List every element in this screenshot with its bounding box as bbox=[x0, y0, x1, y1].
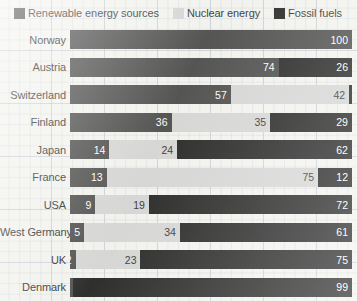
category-label: Japan bbox=[0, 144, 70, 156]
bar-segment-nuclear: 34 bbox=[84, 223, 180, 242]
bar-segment-value: 99 bbox=[336, 282, 352, 293]
category-label: West Germany bbox=[0, 226, 70, 238]
bar-segment-value: 19 bbox=[133, 200, 149, 211]
bar-segment-fossil: 99 bbox=[73, 278, 352, 297]
bar-segment-value: 57 bbox=[215, 90, 231, 101]
bar-segment-fossil: 29 bbox=[270, 113, 352, 132]
legend-item-nuclear: Nuclear energy bbox=[173, 7, 260, 19]
category-label: Finland bbox=[0, 116, 70, 128]
bar-track: 57421 bbox=[70, 85, 352, 104]
category-label: Austria bbox=[0, 61, 70, 73]
bar-segment-value: 62 bbox=[336, 145, 352, 156]
category-label: USA bbox=[0, 199, 70, 211]
bar-track: 142462 bbox=[70, 140, 352, 159]
bar-segment-fossil: 26 bbox=[279, 58, 352, 77]
bar-segment-value: 29 bbox=[336, 117, 352, 128]
legend-item-renewable: Renewable energy sources bbox=[14, 7, 159, 19]
legend-swatch-nuclear-icon bbox=[173, 8, 184, 19]
legend-label: Renewable energy sources bbox=[28, 7, 159, 19]
legend-swatch-renewable-icon bbox=[14, 8, 25, 19]
bar-track: 199 bbox=[70, 278, 352, 297]
bar-segment-nuclear: 35 bbox=[172, 113, 271, 132]
chart-row: Japan142462 bbox=[0, 136, 357, 164]
chart-row: France137512 bbox=[0, 164, 357, 192]
bar-segment-value: 13 bbox=[91, 172, 107, 183]
chart-plot-area: Norway100Austria7426Switzerland57421Finl… bbox=[0, 26, 357, 301]
bar-segment-value: 36 bbox=[156, 117, 172, 128]
bar-segment-renewable: 13 bbox=[70, 168, 107, 187]
bar-track: 22375 bbox=[70, 250, 352, 269]
energy-mix-chart: Renewable energy sourcesNuclear energyFo… bbox=[0, 0, 357, 301]
bar-segment-value: 23 bbox=[125, 255, 141, 266]
chart-row: Switzerland57421 bbox=[0, 81, 357, 109]
category-label: Switzerland bbox=[0, 89, 70, 101]
chart-legend: Renewable energy sourcesNuclear energyFo… bbox=[0, 0, 357, 26]
category-label: UK bbox=[0, 254, 70, 266]
bar-segment-renewable: 9 bbox=[70, 195, 95, 214]
bar-segment-fossil: 12 bbox=[318, 168, 352, 187]
chart-row: Denmark199 bbox=[0, 274, 357, 301]
bar-track: 100 bbox=[70, 30, 352, 49]
bar-segment-value: 34 bbox=[164, 227, 180, 238]
bar-segment-renewable: 100 bbox=[70, 30, 352, 49]
bar-segment-value: 75 bbox=[336, 255, 352, 266]
legend-item-fossil: Fossil fuels bbox=[274, 7, 342, 19]
bar-track: 91972 bbox=[70, 195, 352, 214]
bar-track: 137512 bbox=[70, 168, 352, 187]
bar-segment-value: 24 bbox=[161, 145, 177, 156]
bar-segment-value: 26 bbox=[336, 62, 352, 73]
bar-segment-value: 61 bbox=[336, 227, 352, 238]
bar-segment-renewable: 5 bbox=[70, 223, 84, 242]
bar-segment-fossil: 72 bbox=[149, 195, 352, 214]
bar-segment-renewable: 36 bbox=[70, 113, 172, 132]
chart-row: UK22375 bbox=[0, 246, 357, 274]
bar-segment-renewable: 74 bbox=[70, 58, 279, 77]
bar-segment-nuclear: 42 bbox=[231, 85, 349, 104]
legend-swatch-fossil-icon bbox=[274, 8, 285, 19]
legend-label: Fossil fuels bbox=[288, 7, 342, 19]
bar-segment-value: 100 bbox=[330, 35, 352, 46]
bar-segment-value: 14 bbox=[94, 145, 110, 156]
bar-segment-fossil: 75 bbox=[140, 250, 352, 269]
bar-segment-value: 74 bbox=[263, 62, 279, 73]
bar-segment-renewable: 57 bbox=[70, 85, 231, 104]
legend-label: Nuclear energy bbox=[187, 7, 260, 19]
bar-segment-renewable: 14 bbox=[70, 140, 109, 159]
chart-row: Norway100 bbox=[0, 26, 357, 54]
category-label: France bbox=[0, 171, 70, 183]
chart-row: Austria7426 bbox=[0, 54, 357, 82]
bar-segment-nuclear: 75 bbox=[107, 168, 319, 187]
bar-segment-value: 35 bbox=[255, 117, 271, 128]
bar-segment-value: 72 bbox=[336, 200, 352, 211]
category-label: Denmark bbox=[0, 281, 70, 293]
chart-row: USA91972 bbox=[0, 191, 357, 219]
chart-row: West Germany53461 bbox=[0, 219, 357, 247]
bar-segment-value: 5 bbox=[74, 227, 84, 238]
bar-segment-value: 9 bbox=[86, 200, 96, 211]
bar-segment-value: 75 bbox=[302, 172, 318, 183]
bar-segment-nuclear: 24 bbox=[109, 140, 177, 159]
category-label: Norway bbox=[0, 34, 70, 46]
bar-track: 363529 bbox=[70, 113, 352, 132]
bar-track: 53461 bbox=[70, 223, 352, 242]
bar-segment-value: 1 bbox=[349, 90, 352, 101]
bar-segment-value: 42 bbox=[333, 90, 349, 101]
bar-segment-fossil: 1 bbox=[349, 85, 352, 104]
bar-segment-fossil: 62 bbox=[177, 140, 352, 159]
bar-segment-nuclear: 19 bbox=[95, 195, 149, 214]
chart-row: Finland363529 bbox=[0, 109, 357, 137]
bar-segment-fossil: 61 bbox=[180, 223, 352, 242]
bar-segment-value: 12 bbox=[336, 172, 352, 183]
bar-track: 7426 bbox=[70, 58, 352, 77]
bar-segment-nuclear: 23 bbox=[76, 250, 141, 269]
